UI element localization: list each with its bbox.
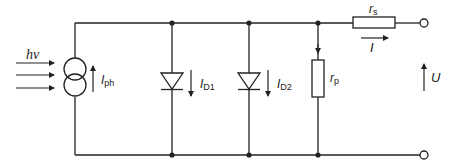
junction-dot	[169, 20, 174, 25]
diode1-icon	[161, 73, 183, 89]
output-voltage-label: U	[431, 70, 441, 85]
parallel-resistor-icon	[312, 60, 324, 97]
rp-label: rp	[330, 71, 339, 86]
output-terminal-bottom	[420, 151, 428, 159]
output-current-label: I	[370, 40, 374, 55]
series-resistor-icon	[353, 17, 395, 28]
id2-label: ID2	[277, 77, 292, 92]
rs-label: rs	[369, 2, 378, 17]
solar-cell-circuit-diagram: hν Iph ID1 ID2 rp rs I U	[0, 0, 454, 168]
id1-label: ID1	[200, 77, 215, 92]
iph-label: Iph	[101, 73, 114, 88]
light-label: hν	[26, 47, 40, 62]
output-terminal-top	[420, 19, 428, 27]
diode2-icon	[238, 73, 260, 89]
